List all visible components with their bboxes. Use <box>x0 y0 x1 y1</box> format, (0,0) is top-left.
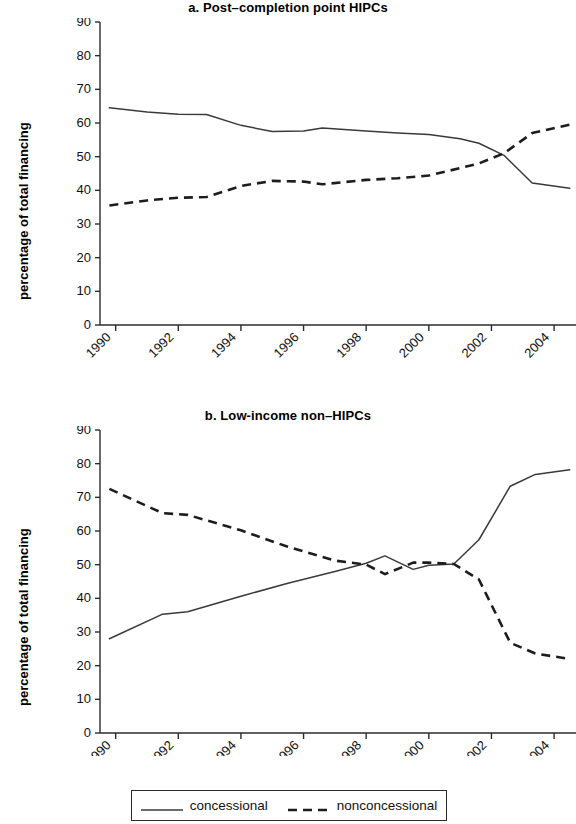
y-tick-label: 50 <box>77 149 91 164</box>
y-tick-label: 50 <box>77 557 91 572</box>
y-tick-label: 0 <box>84 725 91 740</box>
y-tick-label: 90 <box>77 426 91 437</box>
solid-line-swatch-icon <box>141 801 183 811</box>
chart-b-y-axis-label: percentage of total financing <box>16 528 31 706</box>
chart-a-y-axis-label: percentage of total financing <box>16 122 31 300</box>
y-tick-label: 30 <box>77 216 91 231</box>
chart-panel-b: b. Low-income non–HIPCs percentage of to… <box>0 404 576 756</box>
figure-root: a. Post–completion point HIPCs percentag… <box>0 0 576 824</box>
chart-b-plot-area: 0102030405060708090199019921994199619982… <box>58 426 576 756</box>
y-tick-label: 70 <box>77 489 91 504</box>
y-tick-label: 10 <box>77 691 91 706</box>
x-tick-label: 1990 <box>83 738 114 756</box>
legend-label-nonconcessional: nonconcessional <box>337 798 438 813</box>
legend-label-concessional: concessional <box>190 798 268 813</box>
x-tick-label: 1992 <box>145 330 176 361</box>
y-tick-label: 80 <box>77 456 91 471</box>
x-tick-label: 2004 <box>521 330 552 361</box>
x-tick-label: 1990 <box>83 330 114 361</box>
y-tick-label: 30 <box>77 624 91 639</box>
y-tick-label: 20 <box>77 658 91 673</box>
series-line-concessional <box>109 470 569 639</box>
x-tick-label: 1994 <box>208 738 239 756</box>
y-tick-label: 40 <box>77 590 91 605</box>
y-tick-label: 90 <box>77 18 91 29</box>
x-tick-label: 1996 <box>271 330 302 361</box>
y-tick-label: 10 <box>77 283 91 298</box>
x-tick-label: 1994 <box>208 330 239 361</box>
x-tick-label: 1998 <box>333 738 364 756</box>
x-tick-label: 1998 <box>333 330 364 361</box>
series-line-nonconcessional <box>109 489 569 659</box>
series-line-concessional <box>109 108 569 188</box>
series-line-nonconcessional <box>109 125 569 206</box>
chart-legend: concessional nonconcessional <box>131 790 447 821</box>
x-tick-label: 1996 <box>271 738 302 756</box>
y-tick-label: 20 <box>77 250 91 265</box>
y-tick-label: 0 <box>84 317 91 332</box>
y-tick-label: 70 <box>77 81 91 96</box>
x-tick-label: 2002 <box>459 738 490 756</box>
chart-b-title: b. Low-income non–HIPCs <box>0 408 576 423</box>
x-tick-label: 2002 <box>459 330 490 361</box>
y-tick-label: 60 <box>77 523 91 538</box>
chart-a-plot-area: 0102030405060708090199019921994199619982… <box>58 18 576 398</box>
x-tick-label: 1992 <box>145 738 176 756</box>
y-tick-label: 40 <box>77 182 91 197</box>
x-tick-label: 2000 <box>396 738 427 756</box>
y-tick-label: 80 <box>77 48 91 63</box>
chart-a-title: a. Post–completion point HIPCs <box>0 0 576 15</box>
legend-entry-concessional: concessional <box>141 798 268 813</box>
x-tick-label: 2004 <box>521 738 552 756</box>
x-tick-label: 2000 <box>396 330 427 361</box>
dashed-line-swatch-icon <box>288 801 330 811</box>
chart-panel-a: a. Post–completion point HIPCs percentag… <box>0 0 576 404</box>
legend-entry-nonconcessional: nonconcessional <box>288 798 438 813</box>
y-tick-label: 60 <box>77 115 91 130</box>
